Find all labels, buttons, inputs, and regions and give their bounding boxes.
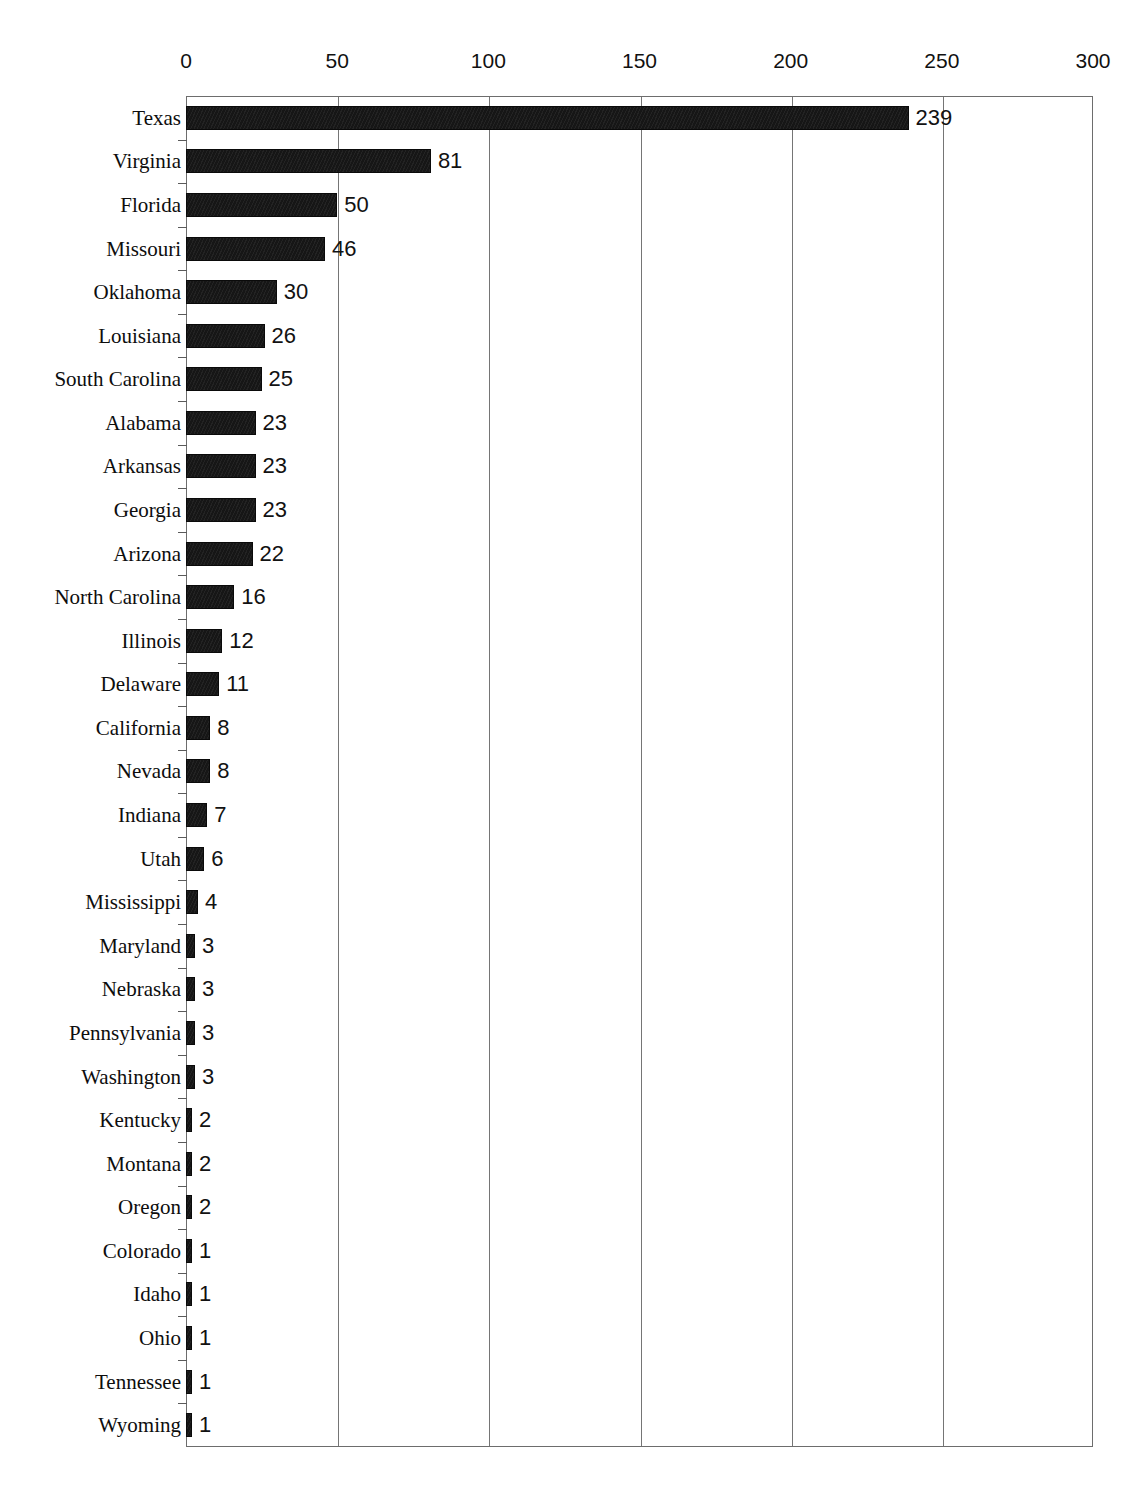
bar-value-label: 11 (226, 671, 249, 697)
bar-missouri (186, 237, 325, 261)
bar-value-label: 1 (199, 1412, 211, 1438)
bar-florida (186, 193, 337, 217)
bar-value-label: 1 (199, 1281, 211, 1307)
bar-value-label: 23 (263, 410, 287, 436)
bar-north-carolina (186, 585, 234, 609)
category-label-maryland: Maryland (99, 934, 181, 958)
bar-row: Arkansas23 (0, 445, 1148, 489)
bar-value-label: 239 (916, 105, 953, 131)
category-label-wyoming: Wyoming (98, 1413, 181, 1437)
category-label-alabama: Alabama (105, 411, 181, 435)
category-label-georgia: Georgia (114, 498, 181, 522)
chart-page: 050100150200250300 Texas239Virginia81Flo… (0, 0, 1148, 1487)
bar-value-label: 2 (199, 1194, 211, 1220)
bar-value-label: 23 (263, 453, 287, 479)
bar-nebraska (186, 977, 195, 1001)
bar-rows: Texas239Virginia81Florida50Missouri46Okl… (0, 96, 1148, 1447)
bar-row: Wyoming1 (0, 1403, 1148, 1447)
bar-montana (186, 1152, 192, 1176)
category-label-pennsylvania: Pennsylvania (69, 1021, 181, 1045)
category-label-nevada: Nevada (117, 759, 181, 783)
bar-wyoming (186, 1413, 192, 1437)
bar-value-label: 1 (199, 1238, 211, 1264)
category-label-south-carolina: South Carolina (54, 367, 181, 391)
bar-value-label: 2 (199, 1151, 211, 1177)
bar-row: Tennessee1 (0, 1360, 1148, 1404)
bar-value-label: 46 (332, 236, 356, 262)
bar-georgia (186, 498, 256, 522)
bar-south-carolina (186, 367, 262, 391)
x-tick-label-0: 0 (180, 48, 192, 74)
bar-row: Utah6 (0, 837, 1148, 881)
bar-value-label: 81 (438, 148, 462, 174)
bar-alabama (186, 411, 256, 435)
bar-value-label: 22 (260, 541, 284, 567)
bar-value-label: 4 (205, 889, 217, 915)
category-label-tennessee: Tennessee (95, 1370, 181, 1394)
bar-row: Washington3 (0, 1055, 1148, 1099)
bar-value-label: 2 (199, 1107, 211, 1133)
bar-row: Indiana7 (0, 793, 1148, 837)
x-tick-label-100: 100 (471, 48, 506, 74)
bar-arizona (186, 542, 253, 566)
bar-row: Oregon2 (0, 1186, 1148, 1230)
bar-value-label: 7 (214, 802, 226, 828)
bar-row: Alabama23 (0, 401, 1148, 445)
bar-california (186, 716, 210, 740)
bar-row: South Carolina25 (0, 357, 1148, 401)
bar-row: Oklahoma30 (0, 270, 1148, 314)
category-label-ohio: Ohio (139, 1326, 181, 1350)
bar-row: Louisiana26 (0, 314, 1148, 358)
bar-oklahoma (186, 280, 277, 304)
category-label-virginia: Virginia (113, 149, 181, 173)
x-tick-label-150: 150 (622, 48, 657, 74)
bar-indiana (186, 803, 207, 827)
x-axis-tick-labels: 050100150200250300 (0, 48, 1148, 82)
category-label-california: California (96, 716, 181, 740)
bar-row: Virginia81 (0, 140, 1148, 184)
category-label-delaware: Delaware (101, 672, 181, 696)
x-tick-label-250: 250 (924, 48, 959, 74)
bar-row: Idaho1 (0, 1273, 1148, 1317)
category-label-arizona: Arizona (113, 542, 181, 566)
bar-row: Mississippi4 (0, 880, 1148, 924)
bar-value-label: 25 (269, 366, 293, 392)
bar-value-label: 1 (199, 1369, 211, 1395)
bar-nevada (186, 759, 210, 783)
bar-virginia (186, 149, 431, 173)
bar-value-label: 3 (202, 1020, 214, 1046)
bar-row: Illinois12 (0, 619, 1148, 663)
bar-row: Nevada8 (0, 750, 1148, 794)
category-label-idaho: Idaho (133, 1282, 181, 1306)
x-tick-label-50: 50 (325, 48, 348, 74)
bar-value-label: 8 (217, 758, 229, 784)
bar-value-label: 30 (284, 279, 308, 305)
bar-value-label: 3 (202, 933, 214, 959)
bar-colorado (186, 1239, 192, 1263)
category-label-utah: Utah (140, 847, 181, 871)
bar-tennessee (186, 1370, 192, 1394)
bar-value-label: 8 (217, 715, 229, 741)
bar-ohio (186, 1326, 192, 1350)
bar-value-label: 1 (199, 1325, 211, 1351)
bar-value-label: 12 (229, 628, 253, 654)
bar-delaware (186, 672, 219, 696)
bar-utah (186, 847, 204, 871)
bar-row: Arizona22 (0, 532, 1148, 576)
bar-maryland (186, 934, 195, 958)
category-label-washington: Washington (81, 1065, 181, 1089)
category-label-arkansas: Arkansas (103, 454, 181, 478)
category-label-north-carolina: North Carolina (54, 585, 181, 609)
bar-value-label: 6 (211, 846, 223, 872)
bar-texas (186, 106, 909, 130)
category-label-mississippi: Mississippi (85, 890, 181, 914)
bar-row: Nebraska3 (0, 968, 1148, 1012)
bar-value-label: 26 (272, 323, 296, 349)
bar-row: Maryland3 (0, 924, 1148, 968)
bar-washington (186, 1065, 195, 1089)
bar-kentucky (186, 1108, 192, 1132)
bar-row: Colorado1 (0, 1229, 1148, 1273)
category-label-texas: Texas (132, 106, 181, 130)
bar-value-label: 16 (241, 584, 265, 610)
bar-row: Texas239 (0, 96, 1148, 140)
